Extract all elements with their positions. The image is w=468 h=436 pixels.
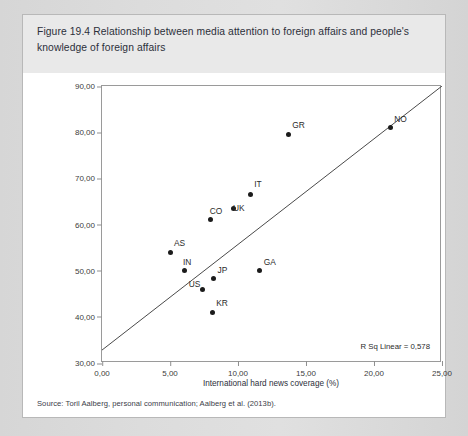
y-axis-tick: 90,00 (75, 82, 102, 91)
x-axis-tick: 10,00 (228, 361, 248, 378)
data-point-label: US (189, 279, 201, 289)
plot-frame: ASINCOUSKRJPUKITGAGRNO R Sq Linear = 0,5… (101, 85, 441, 362)
data-point (168, 250, 173, 255)
page-background: Figure 19.4 Relationship between media a… (0, 0, 468, 436)
data-point (200, 287, 205, 292)
data-point-label: CO (210, 206, 223, 216)
data-point-label: IT (254, 179, 261, 189)
y-axis-tick: 70,00 (75, 174, 102, 183)
figure-body: International hard news knowledge (%) AS… (23, 73, 445, 417)
data-point-label: JP (218, 265, 228, 275)
figure-header: Figure 19.4 Relationship between media a… (23, 15, 445, 73)
y-axis-tick: 80,00 (75, 128, 102, 137)
data-point-label: KR (216, 298, 228, 308)
data-point-label: AS (174, 238, 185, 248)
y-axis-tick: 50,00 (75, 266, 102, 275)
y-axis-tick: 60,00 (75, 220, 102, 229)
r-squared-annotation: R Sq Linear = 0,578 (360, 342, 430, 351)
data-point (248, 192, 253, 197)
source-note: Source: Toril Aalberg, personal communic… (37, 399, 276, 408)
scatter-chart: International hard news knowledge (%) AS… (39, 79, 431, 389)
data-point-label: GA (264, 257, 276, 267)
x-axis-tick: 15,00 (296, 361, 316, 378)
data-point (210, 310, 215, 315)
data-point (286, 132, 291, 137)
data-point-label: GR (292, 120, 305, 130)
x-axis-title: International hard news coverage (%) (101, 379, 441, 388)
data-point (388, 125, 393, 130)
data-point-label: UK (233, 203, 245, 213)
data-point-label: IN (183, 257, 191, 267)
plot-inner: ASINCOUSKRJPUKITGAGRNO (102, 86, 440, 361)
x-axis-tick: 0,00 (94, 361, 110, 378)
y-axis-tick: 40,00 (75, 312, 102, 321)
figure-container: Figure 19.4 Relationship between media a… (22, 14, 446, 418)
x-axis-tick: 25,00 (432, 361, 452, 378)
x-axis-tick: 5,00 (162, 361, 178, 378)
x-axis-tick: 20,00 (364, 361, 384, 378)
data-point-label: NO (394, 114, 407, 124)
figure-caption: Figure 19.4 Relationship between media a… (37, 24, 429, 56)
